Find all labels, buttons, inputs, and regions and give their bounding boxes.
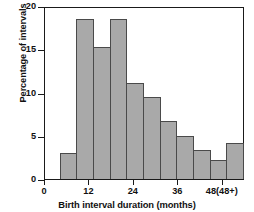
x-tick-label: 36 bbox=[172, 186, 182, 196]
bar-18-24 bbox=[93, 47, 111, 179]
y-tick-label: 15 bbox=[0, 44, 36, 54]
bar-30-36 bbox=[126, 83, 144, 179]
x-tick-label: 24 bbox=[128, 186, 138, 196]
histogram-figure: Percentage of intervals 20151050 0122436… bbox=[0, 0, 254, 212]
x-tick-mark bbox=[222, 180, 223, 185]
bar-series bbox=[45, 8, 243, 179]
x-tick-mark bbox=[133, 180, 134, 185]
y-tick-label: 20 bbox=[0, 1, 36, 11]
y-axis-title: Percentage of intervals bbox=[18, 0, 28, 128]
y-tick-label: 5 bbox=[0, 131, 36, 141]
y-tick-label: 0 bbox=[0, 174, 36, 184]
x-tick-label: 12 bbox=[83, 186, 93, 196]
bar-12-18 bbox=[76, 19, 94, 179]
bar-36-42 bbox=[143, 97, 161, 179]
bar-6-12 bbox=[60, 153, 78, 180]
bar-24-30 bbox=[110, 19, 128, 179]
bar-48+ bbox=[226, 143, 244, 179]
x-tick-mark bbox=[177, 180, 178, 185]
x-axis-title: Birth interval duration (months) bbox=[0, 199, 254, 210]
x-tick-mark bbox=[44, 180, 45, 185]
bar-54-60 bbox=[193, 150, 211, 179]
x-tick-label: 0 bbox=[41, 186, 46, 196]
bar-60-66 bbox=[210, 160, 228, 179]
plot-area bbox=[44, 7, 244, 180]
y-tick-label: 10 bbox=[0, 88, 36, 98]
x-tick-mark bbox=[88, 180, 89, 185]
bar-48-54 bbox=[176, 136, 194, 179]
x-tick-label: 48(48+) bbox=[206, 186, 238, 196]
bar-42-48 bbox=[160, 121, 178, 179]
